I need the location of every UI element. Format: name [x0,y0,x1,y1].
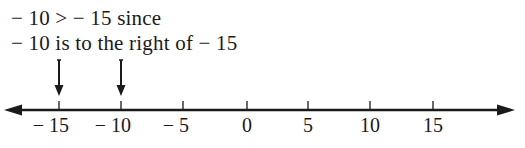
tick-label-group: − 15− 10− 5051015 [33,114,443,136]
tick-label: 0 [242,114,252,136]
tick-label: 5 [303,114,313,136]
tick-label: 15 [423,114,443,136]
tick-label: − 5 [163,114,189,136]
tick-label: − 15 [33,114,69,136]
left-arrow-icon [4,105,22,116]
tick-label: 10 [360,114,380,136]
tick-group [59,101,433,110]
down-arrow-icon [117,85,126,96]
number-line: − 15− 10− 5051015 [0,0,525,148]
tick-label: − 10 [95,114,131,136]
down-arrow-icon [55,85,64,96]
right-arrow-icon [497,105,515,116]
pointer-group [55,60,126,96]
